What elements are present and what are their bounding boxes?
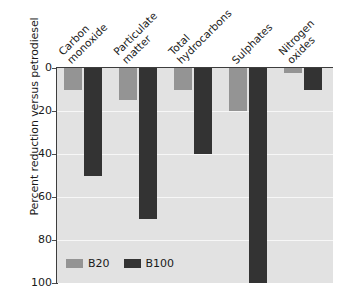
bar-b20-sulphates <box>229 68 247 111</box>
legend-swatch-b20 <box>66 259 83 268</box>
legend-item-b100[interactable]: B100 <box>124 258 175 269</box>
legend-swatch-b100 <box>124 259 141 268</box>
legend-label: B100 <box>146 258 175 269</box>
legend-item-b20[interactable]: B20 <box>66 258 110 269</box>
bar-group <box>167 68 222 283</box>
y-tick-label: 20 <box>26 105 52 116</box>
plot-area <box>57 68 333 283</box>
bar-group <box>278 68 333 283</box>
bar-b100-nitrogen-oxides <box>304 68 322 90</box>
bar-b100-sulphates <box>249 68 267 283</box>
bars-layer <box>57 68 333 283</box>
bar-b20-particulate-matter <box>119 68 137 100</box>
y-tick-label: 80 <box>26 234 52 245</box>
bar-chart: Percent reduction versus petrodiesel 020… <box>0 0 347 299</box>
chart-legend: B20B100 <box>66 258 174 269</box>
bar-b20-nitrogen-oxides <box>284 68 302 73</box>
bar-group <box>57 68 112 283</box>
bar-b100-carbon-monoxide <box>84 68 102 176</box>
bar-b100-total-hydrocarbons <box>194 68 212 154</box>
category-label-carbon-monoxide: Carbonmonoxide <box>56 13 109 66</box>
category-label-particulate-matter: Particulatematter <box>112 10 168 66</box>
bar-b20-carbon-monoxide <box>64 68 82 90</box>
y-tick-label: 100 <box>26 277 52 288</box>
y-tick-label: 60 <box>26 191 52 202</box>
x-axis-category-labels: CarbonmonoxideParticulatematterTotalhydr… <box>0 0 347 68</box>
bar-group <box>223 68 278 283</box>
category-label-line: Sulphates <box>230 21 275 66</box>
bar-b100-particulate-matter <box>139 68 157 219</box>
bar-b20-total-hydrocarbons <box>174 68 192 90</box>
category-label-sulphates: Sulphates <box>230 21 275 66</box>
category-label-total-hydrocarbons: Totalhydrocarbons <box>167 0 234 66</box>
y-tick-label: 40 <box>26 148 52 159</box>
legend-label: B20 <box>88 258 110 269</box>
category-label-nitrogen-oxides: Nitrogenoxides <box>277 18 325 66</box>
bar-group <box>112 68 167 283</box>
